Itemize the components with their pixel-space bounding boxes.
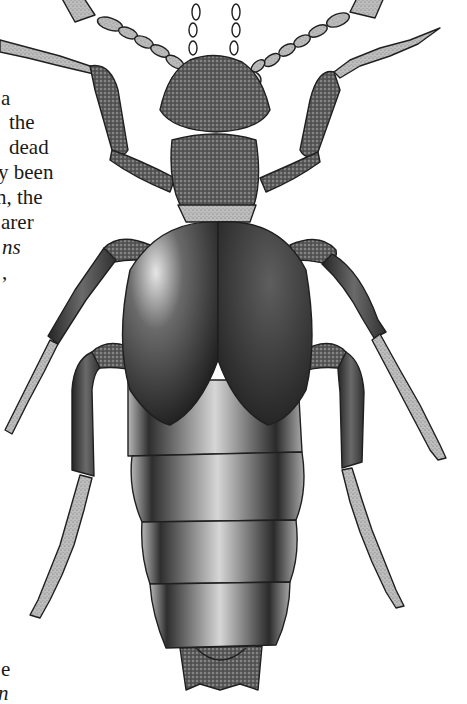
right-hindleg — [300, 344, 404, 609]
left-antenna — [60, 0, 186, 72]
maxillary-palps — [189, 4, 240, 55]
beetle-abdomen — [128, 380, 304, 690]
beetle-pronotum — [171, 134, 259, 222]
left-hindleg — [30, 344, 140, 619]
left-foreleg — [0, 40, 175, 192]
